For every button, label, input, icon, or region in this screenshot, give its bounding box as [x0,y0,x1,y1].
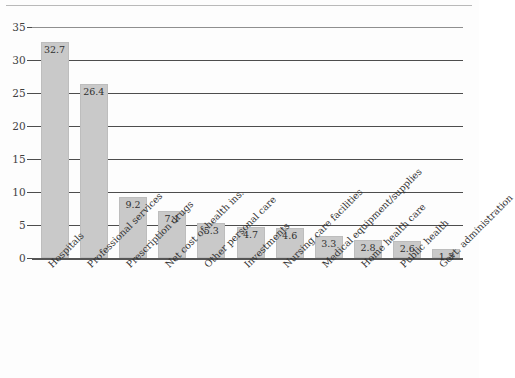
y-tick-label-20: 20 [0,121,26,132]
bar[interactable]: 5.3 [197,223,225,258]
bar-value-label: 4.6 [277,231,303,241]
bar[interactable]: 4.6 [276,228,304,258]
bar-value-label: 3.3 [316,239,342,249]
plot-area: 32.726.49.27.15.34.74.63.32.82.61.3 [32,27,463,258]
y-tick-label-0: 0 [0,253,26,264]
bar-value-label: 7.1 [159,214,185,224]
bar[interactable]: 7.1 [158,211,186,258]
bar[interactable]: 4.7 [237,227,265,258]
bar[interactable]: 3.3 [315,236,343,258]
bar-value-label: 26.4 [81,87,107,97]
bar[interactable]: 2.6 [393,241,421,258]
x-axis-baseline [32,258,463,260]
figure-top-rule [6,5,472,6]
bar-value-label: 5.3 [198,226,224,236]
bar[interactable]: 2.8 [354,240,382,258]
bar-value-label: 4.7 [238,230,264,240]
y-tick-label-25: 25 [0,88,26,99]
y-axis: 05101520253035 [0,0,26,378]
bar[interactable]: 1.3 [432,249,460,258]
y-tick-label-10: 10 [0,187,26,198]
bar[interactable]: 32.7 [41,42,69,258]
gridline-30 [32,60,463,61]
bar-value-label: 32.7 [42,45,68,55]
bar[interactable]: 26.4 [80,84,108,258]
y-tick-label-5: 5 [0,220,26,231]
y-tick-label-30: 30 [0,55,26,66]
y-tick-label-15: 15 [0,154,26,165]
bar-value-label: 2.8 [355,243,381,253]
bar-value-label: 2.6 [394,244,420,254]
bar-value-label: 1.3 [433,252,459,262]
y-tick-label-35: 35 [0,22,26,33]
bar[interactable]: 9.2 [119,197,147,258]
bar-value-label: 9.2 [120,200,146,210]
gridline-35 [32,27,463,28]
